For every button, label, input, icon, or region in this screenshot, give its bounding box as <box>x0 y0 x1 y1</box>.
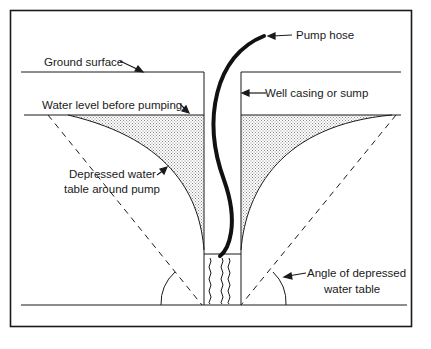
well-screen-icon <box>209 258 230 304</box>
label-depressed-water-2: table around pump <box>64 183 160 195</box>
well-drawdown-diagram: Pump hose Ground surface Well casing or … <box>0 0 431 349</box>
label-depressed-water-1: Depressed water <box>69 168 156 180</box>
label-water-level: Water level before pumping <box>42 99 182 111</box>
label-angle-1: Angle of depressed <box>307 267 406 279</box>
label-angle-2: water table <box>323 283 380 295</box>
label-pump-hose: Pump hose <box>296 29 354 41</box>
angle-arc-left <box>161 272 175 305</box>
label-ground-surface: Ground surface <box>44 56 123 68</box>
label-well-casing: Well casing or sump <box>265 87 368 99</box>
